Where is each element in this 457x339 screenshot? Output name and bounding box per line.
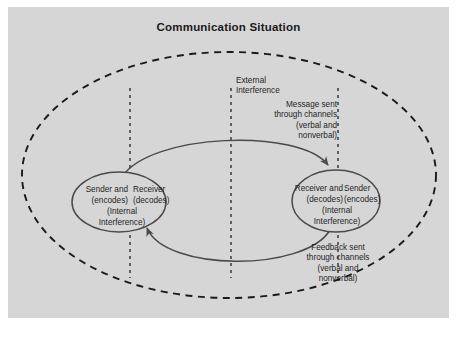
curved-arrow-right-icon — [122, 140, 328, 177]
label-right-role-receiver-title: Receiver and — [295, 184, 343, 193]
label-left-internal-interference: (Internal Interference) — [76, 206, 168, 228]
label-right-internal-interference: (Internal Interference) — [292, 205, 382, 227]
label-feedback-sent: Feedback sent through channels (verbal a… — [279, 243, 397, 285]
label-left-role-receiver-title: Receiver — [133, 185, 165, 194]
label-right-role-receiver-sub: (decodes) — [307, 195, 343, 204]
diagram-root: Communication Situation External Interfe… — [0, 0, 457, 339]
label-right-role-sender: Sender(encodes) — [344, 183, 388, 205]
label-left-role-sender-sub: (encodes) — [92, 196, 128, 205]
communication-model-graphic — [0, 0, 457, 339]
label-left-role-receiver-sub: (decodes) — [133, 196, 169, 205]
label-external-interference: External Interference — [236, 76, 280, 97]
label-left-role-sender: Sender and(encodes) — [74, 184, 128, 206]
label-right-role-sender-sub: (encodes) — [344, 195, 380, 204]
label-message-sent: Message sent through channels (verbal an… — [238, 100, 337, 142]
label-right-role-receiver: Receiver and(decodes) — [291, 183, 343, 205]
label-left-role-sender-title: Sender and — [86, 185, 128, 194]
label-left-role-receiver: Receiver(decodes) — [133, 184, 181, 206]
label-right-role-sender-title: Sender — [344, 184, 370, 193]
